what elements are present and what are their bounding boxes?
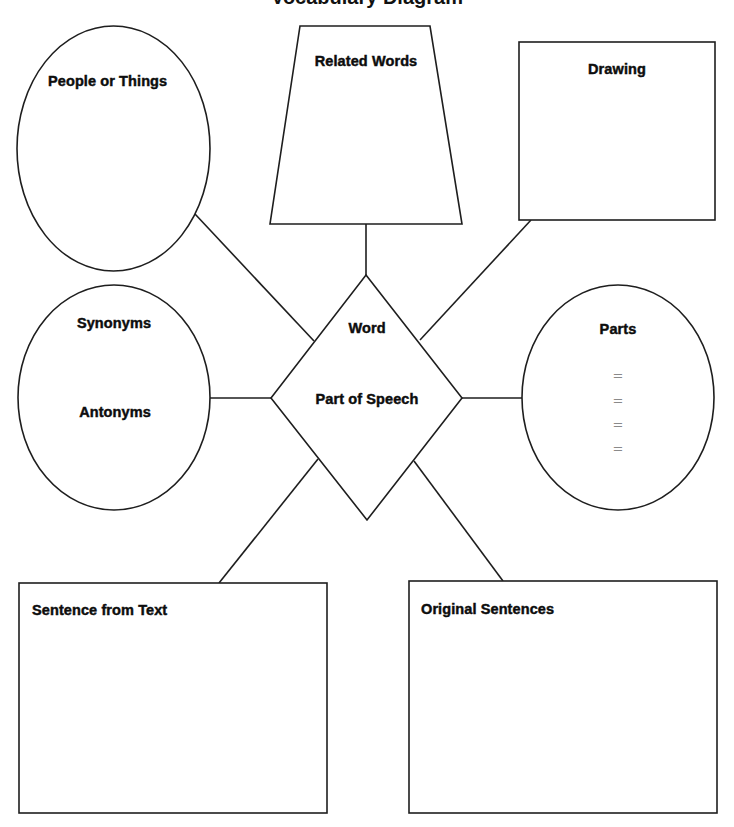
word-label: Word — [348, 320, 385, 336]
connector-people — [195, 214, 314, 341]
connector-drawing — [420, 220, 531, 340]
people-or-things-ellipse — [17, 26, 210, 271]
diagram-title-cut-off: Vocabulary Diagram — [271, 0, 463, 9]
connector-original — [414, 461, 503, 581]
connector-sentence — [219, 459, 318, 583]
original-sentences-label: Original Sentences — [421, 601, 554, 617]
parts-entry-2: = — [613, 394, 624, 408]
drawing-label: Drawing — [588, 61, 646, 77]
synonyms-label: Synonyms — [77, 315, 151, 331]
antonyms-label: Antonyms — [79, 404, 151, 420]
parts-label: Parts — [600, 321, 637, 337]
related-words-label: Related Words — [315, 53, 418, 69]
sentence-from-text-label: Sentence from Text — [32, 602, 167, 618]
parts-entry-4: = — [613, 442, 624, 456]
part-of-speech-label: Part of Speech — [316, 391, 419, 407]
people-or-things-label: People or Things — [48, 73, 167, 89]
parts-entry-3: = — [613, 418, 624, 432]
parts-entry-1: = — [613, 369, 624, 383]
